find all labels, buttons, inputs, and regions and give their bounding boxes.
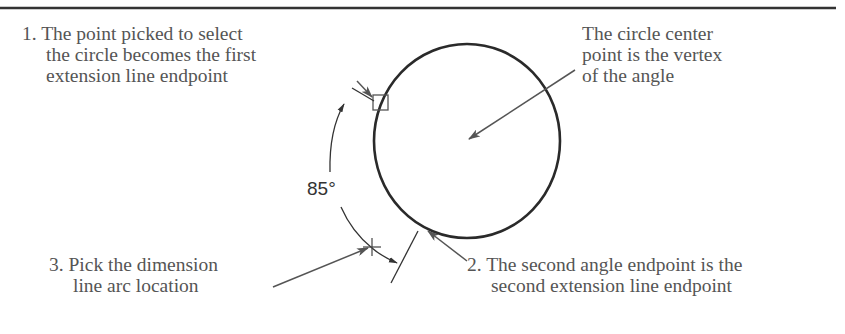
leader-step3-arrow: [273, 248, 368, 287]
angle-dimension-value: 85°: [307, 178, 336, 200]
callout-center-line3: of the angle: [582, 65, 722, 86]
callout-step2-line2: second extension line endpoint: [467, 275, 742, 296]
callout-center-line2: point is the vertex: [582, 44, 722, 65]
dimension-arc-upper: [330, 104, 344, 172]
callout-center: The circle center point is the vertex of…: [582, 23, 722, 86]
callout-step2-line1: 2. The second angle endpoint is the: [467, 254, 742, 275]
callout-step1: 1. The point picked to select the circle…: [22, 23, 256, 86]
dimension-arc-lower: [341, 207, 397, 263]
callout-step3: 3. Pick the dimension line arc location: [49, 254, 218, 296]
callout-step1-line2: the circle becomes the first: [22, 44, 256, 65]
extension-line-2: [391, 231, 418, 283]
extension-line-1: [352, 88, 374, 101]
callout-step3-line2: line arc location: [49, 275, 218, 296]
leader-step1-arrow: [357, 81, 372, 97]
callout-step1-line1: 1. The point picked to select: [22, 23, 256, 44]
callout-step2: 2. The second angle endpoint is the seco…: [467, 254, 742, 296]
callout-step1-line3: extension line endpoint: [22, 65, 256, 86]
circle: [374, 44, 560, 238]
callout-step3-line1: 3. Pick the dimension: [49, 254, 218, 275]
callout-center-line1: The circle center: [582, 23, 722, 44]
